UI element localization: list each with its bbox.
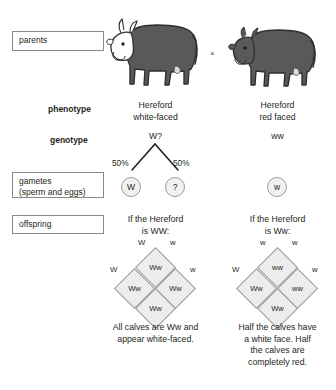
punnett-right-label-right: w <box>312 265 318 274</box>
offspring-heading-right: If the Hereford is Ww: <box>230 214 325 237</box>
phenotype-right: Hereford red faced <box>230 100 325 123</box>
genotype-right: ww <box>230 131 325 143</box>
caption-right: Half the calves have a white face. Half … <box>230 322 325 368</box>
offspring-heading-right-line1: If the Hereford <box>230 214 325 226</box>
phenotype-left: Hereford white-faced <box>108 100 203 123</box>
row-box-parents-label: parents <box>19 35 103 46</box>
offspring-heading-left-line2: is WW: <box>108 226 203 238</box>
caption-left-line1: All calves are Ww and <box>108 322 203 334</box>
caption-right-line1: Half the calves have <box>230 322 325 334</box>
punnett-left-cell-bottom-text: Ww <box>142 295 169 322</box>
row-box-gametes-label-line1: gametes <box>19 176 103 187</box>
phenotype-right-line2: red faced <box>230 112 325 124</box>
phenotype-left-line1: Hereford <box>108 100 203 112</box>
punnett-left-label-right: w <box>190 265 196 274</box>
gamete-percent-right: 50% <box>173 158 190 168</box>
offspring-heading-left: If the Hereford is WW: <box>108 214 203 237</box>
punnett-right-label-top-right: w <box>292 238 298 247</box>
punnett-right-label-left: W <box>232 265 239 274</box>
punnett-left-label-left: W <box>110 265 117 274</box>
caption-right-line3: the calves are <box>230 345 325 357</box>
row-label-phenotype: phenotype <box>48 104 91 114</box>
punnett-square-right: w w W w ww Ww ww Ww <box>235 247 319 331</box>
caption-right-line4: completely red. <box>230 357 325 369</box>
punnett-left-label-top-left: W <box>138 238 145 247</box>
genotype-left: W? <box>108 131 203 143</box>
gamete-circle-unknown: ? <box>165 177 185 197</box>
cross-symbol: × <box>210 49 215 58</box>
punnett-right-label-top-left: w <box>260 238 266 247</box>
gamete-circle-w: w <box>267 177 287 197</box>
phenotype-left-line2: white-faced <box>108 112 203 124</box>
cow-illustration-white-faced <box>105 14 200 92</box>
row-box-gametes: gametes (sperm and eggs) <box>12 172 104 198</box>
offspring-heading-right-line2: is Ww: <box>230 226 325 238</box>
punnett-left-label-top-right: w <box>170 238 176 247</box>
punnett-square-left: W w W w Ww Ww Ww Ww <box>113 247 197 331</box>
caption-left: All calves are Ww and appear white-faced… <box>108 322 203 345</box>
cow-illustration-red-faced <box>228 20 316 92</box>
row-box-offspring-label: offspring <box>19 219 103 230</box>
offspring-heading-left-line1: If the Hereford <box>108 214 203 226</box>
phenotype-right-line1: Hereford <box>230 100 325 112</box>
punnett-right-cell-bottom-text: Ww <box>264 295 291 322</box>
gamete-percent-left: 50% <box>112 158 129 168</box>
row-label-genotype: genotype <box>50 135 88 145</box>
gamete-circle-W: W <box>121 177 141 197</box>
row-box-gametes-label-line2: (sperm and eggs) <box>19 187 103 198</box>
row-box-offspring: offspring <box>12 215 104 234</box>
caption-left-line2: appear white-faced. <box>108 334 203 346</box>
row-box-parents: parents <box>12 31 104 51</box>
genetics-diagram: parents gametes (sperm and eggs) offspri… <box>0 0 336 390</box>
caption-right-line2: a white face. Half <box>230 334 325 346</box>
